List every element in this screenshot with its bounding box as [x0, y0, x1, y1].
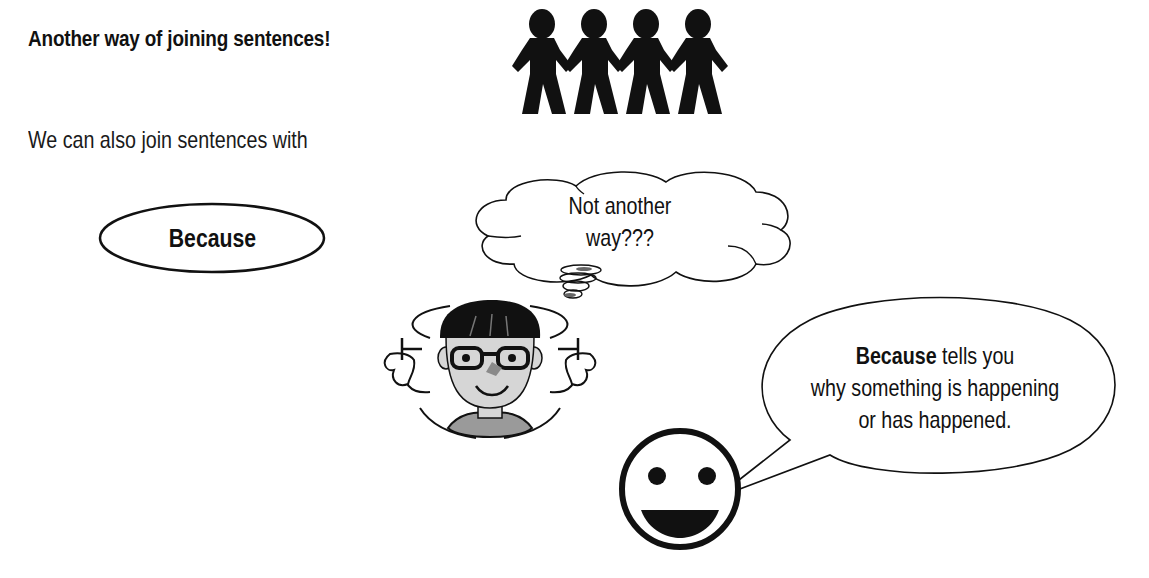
speech-bold-word: Because — [856, 342, 937, 369]
keyword-text: Because — [168, 224, 255, 253]
speech-bubble-text: Because tells you why something is happe… — [750, 340, 1120, 436]
keyword-label: Because — [98, 202, 326, 274]
thought-bubble-text: Not another way??? — [520, 190, 720, 254]
speech-line-1: Because tells you — [783, 340, 1086, 372]
people-holding-hands-icon — [508, 6, 718, 118]
thought-line-2: way??? — [538, 222, 702, 254]
thought-line-1: Not another — [538, 190, 702, 222]
smiley-face-icon — [615, 424, 745, 554]
speech-line-2: why something is happening — [783, 372, 1086, 404]
speech-line-1-rest: tells you — [937, 342, 1015, 369]
dizzy-boy-with-glasses-icon — [380, 296, 600, 446]
page-title: Another way of joining sentences! — [28, 26, 330, 52]
intro-text: We can also join sentences with — [28, 126, 308, 154]
speech-line-3: or has happened. — [783, 404, 1086, 436]
